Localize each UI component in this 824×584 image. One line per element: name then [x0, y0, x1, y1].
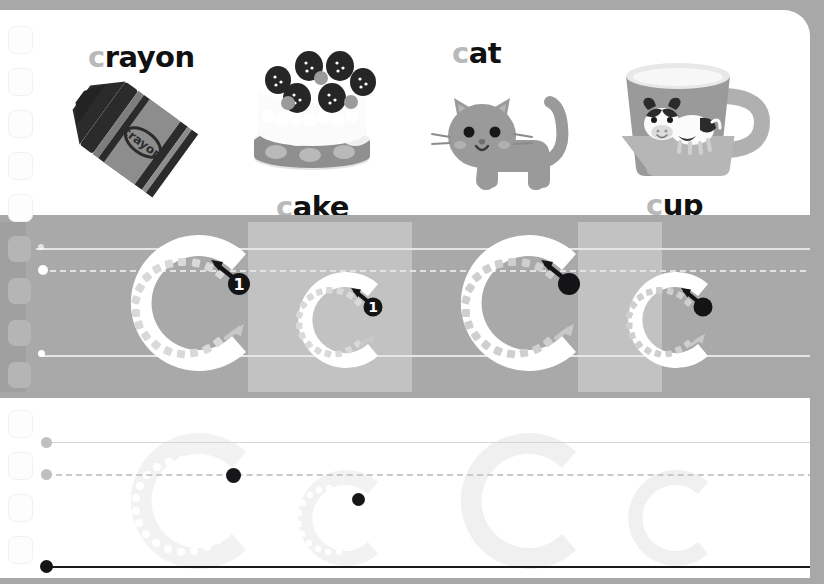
crayon-illustration: crayon: [60, 68, 200, 198]
trace-letter-3[interactable]: [438, 240, 588, 365]
spiral-binding: [0, 0, 38, 584]
word-label-crayon: crayon: [88, 40, 195, 74]
binding-hole: [8, 68, 33, 96]
practice-letter-1[interactable]: [108, 438, 258, 563]
trace-mid-start-dot: [38, 265, 48, 275]
practice-mid-start-dot: [41, 469, 52, 480]
trace-letter-1[interactable]: 1: [108, 240, 258, 365]
word-rest: rayon: [105, 40, 195, 74]
stroke-1-end-arrow: [226, 324, 244, 338]
svg-text:1: 1: [233, 275, 244, 294]
practice-top-line: [46, 442, 810, 443]
cake-illustration: [232, 32, 392, 182]
word-rest: ake: [293, 190, 349, 215]
practice-letter-3[interactable]: [438, 438, 588, 563]
word-label-cat: cat: [452, 36, 501, 70]
word-rest: up: [663, 188, 703, 215]
stroke-1-end-arrow: [361, 334, 375, 345]
practice-row: [0, 398, 810, 578]
binding-hole: [8, 410, 33, 438]
trace-base-start-dot: [38, 350, 45, 357]
binding-hole: [8, 152, 33, 180]
binding-hole: [8, 362, 31, 388]
worksheet-page: crayon: [0, 0, 824, 584]
trace-top-start-dot: [38, 244, 44, 250]
binding-hole: [8, 110, 33, 138]
practice-letter-1-start-dot: [226, 468, 241, 483]
binding-hole: [8, 320, 31, 346]
word-rest: at: [469, 36, 501, 70]
word-label-cup: cup: [646, 188, 703, 215]
practice-letter-2[interactable]: [276, 472, 386, 564]
binding-hole: [8, 494, 33, 522]
binding-hole: [8, 236, 31, 262]
practice-letter-2-start-dot: [352, 493, 365, 506]
cup-illustration: [600, 48, 770, 188]
lead-letter: c: [646, 188, 663, 215]
stroke-end-arrow: [556, 324, 574, 338]
binding-hole: [8, 26, 33, 54]
trace-letter-4[interactable]: [606, 274, 716, 366]
tracing-row: 1: [0, 222, 824, 392]
binding-hole: [8, 194, 33, 222]
practice-mid-line: [46, 474, 810, 476]
svg-text:1: 1: [368, 299, 378, 315]
practice-top-start-dot: [41, 437, 52, 448]
practice-base-line: [42, 566, 810, 568]
vocabulary-card: crayon: [0, 10, 810, 215]
practice-base-start-dot: [40, 560, 53, 573]
binding-hole: [8, 278, 31, 304]
lead-letter: c: [88, 40, 105, 74]
word-label-cake: cake: [276, 190, 349, 215]
lead-letter: c: [452, 36, 469, 70]
practice-letter-4[interactable]: [606, 472, 716, 564]
trace-letter-2[interactable]: 1: [276, 274, 386, 366]
binding-hole: [8, 536, 33, 564]
binding-hole: [8, 452, 33, 480]
stroke-end-arrow: [691, 334, 705, 345]
page-right-margin: [810, 0, 824, 584]
lead-letter: c: [276, 190, 293, 215]
cat-illustration: [424, 66, 584, 206]
